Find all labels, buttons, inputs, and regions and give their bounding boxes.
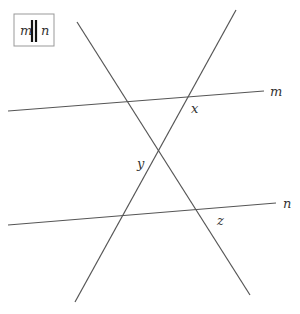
parallel-legend: m n: [14, 14, 54, 46]
angle-y-label: y: [136, 156, 145, 171]
legend-m-label: m: [20, 23, 32, 38]
line-m-label: m: [270, 84, 282, 99]
angle-x-label: x: [191, 101, 199, 116]
angle-z-label: z: [216, 213, 224, 228]
line-m: [8, 91, 264, 111]
line-n: [8, 203, 276, 225]
line-n-label: n: [283, 196, 291, 211]
transversal-line-1: [77, 22, 250, 295]
legend-n-label: n: [41, 23, 49, 38]
transversal-line-2: [75, 10, 236, 302]
geometry-diagram: m n m n x y z: [0, 0, 300, 314]
